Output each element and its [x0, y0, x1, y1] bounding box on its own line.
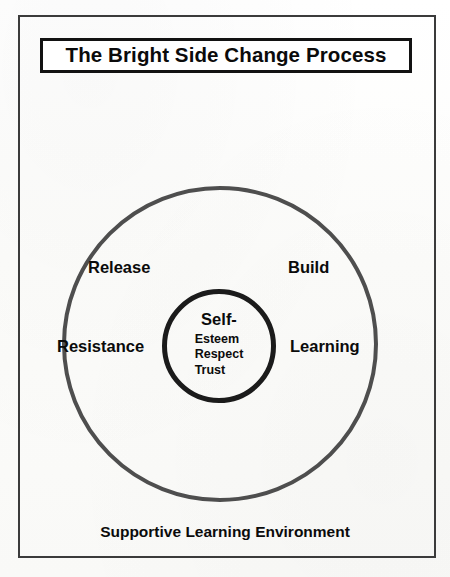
diagram-caption: Supportive Learning Environment: [0, 524, 450, 540]
inner-core-item: Respect: [195, 347, 244, 363]
diagram-page: The Bright Side Change Process Release B…: [0, 0, 450, 577]
ring-label-build: Build: [288, 259, 329, 276]
ring-label-learning: Learning: [290, 338, 360, 355]
inner-core-text-group: Self- Esteem Respect Trust: [162, 289, 276, 403]
inner-core-item-list: Esteem Respect Trust: [195, 332, 244, 379]
inner-core-item: Esteem: [195, 332, 244, 348]
inner-core-item: Trust: [195, 363, 244, 379]
ring-label-resistance: Resistance: [57, 338, 144, 355]
ring-label-release: Release: [88, 259, 150, 276]
inner-core-primary-label: Self-: [201, 311, 237, 328]
page-title: The Bright Side Change Process: [66, 45, 387, 66]
title-box: The Bright Side Change Process: [40, 38, 412, 73]
